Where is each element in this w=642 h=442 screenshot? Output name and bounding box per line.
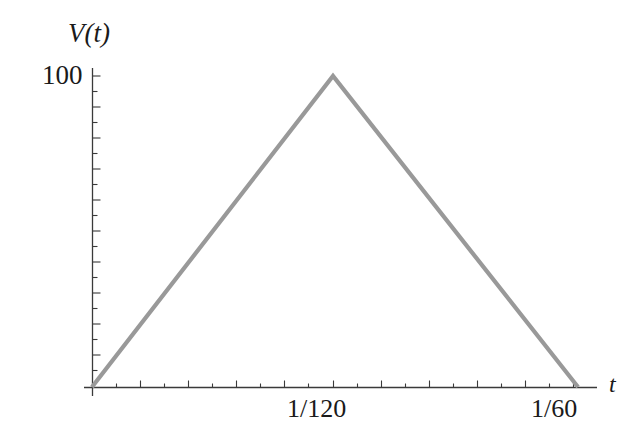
y-axis-label: V(t) (68, 20, 110, 47)
x-axis-label: t (609, 372, 616, 396)
x-tick-label-1-60: 1/60 (531, 396, 577, 422)
x-tick-label-1-120: 1/120 (287, 396, 346, 422)
y-tick-label-100: 100 (42, 62, 83, 89)
waveform-line (92, 76, 578, 387)
chart-figure: V(t) t 100 1/120 1/60 (0, 0, 642, 442)
y-axis-ticks (93, 76, 101, 371)
x-axis-ticks (117, 381, 574, 388)
triangular-waveform-plot (0, 0, 642, 442)
